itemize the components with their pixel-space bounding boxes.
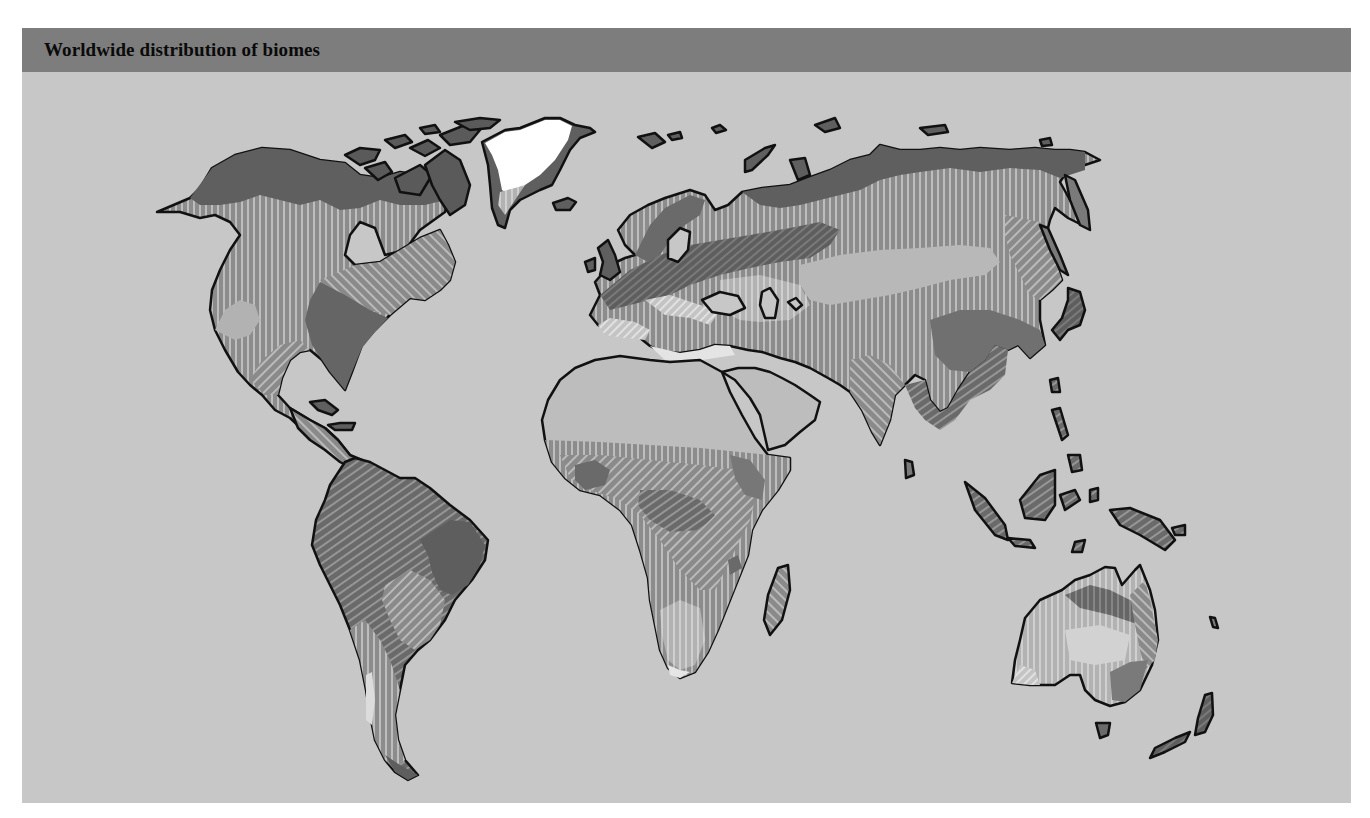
figure-title: Worldwide distribution of biomes: [44, 39, 320, 61]
sri-lanka: [905, 460, 914, 478]
world-biome-map: [22, 72, 1351, 803]
map-figure-panel: Worldwide distribution of biomes: [22, 28, 1351, 803]
title-bar: Worldwide distribution of biomes: [22, 28, 1351, 72]
